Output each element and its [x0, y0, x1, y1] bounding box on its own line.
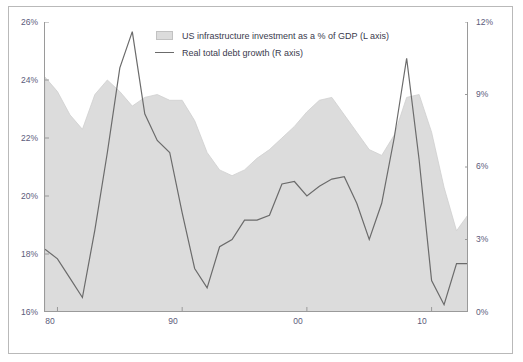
y-left-tick-26: 26% — [8, 17, 38, 27]
y-right-tick-3: 3% — [476, 234, 506, 244]
area-series-infrastructure — [45, 77, 468, 312]
chart-plot-svg — [45, 22, 468, 312]
y-left-tick-22: 22% — [8, 133, 38, 143]
y-right-tick-9: 9% — [476, 89, 506, 99]
y-right-tick-12: 12% — [476, 17, 506, 27]
plot-area — [44, 22, 468, 312]
y-right-tick-6: 6% — [476, 161, 506, 171]
y-right-tick-0: 0% — [476, 307, 506, 317]
y-left-tick-16: 16% — [8, 307, 38, 317]
chart-container: US infrastructure investment as a % of G… — [0, 0, 523, 362]
y-left-tick-24: 24% — [8, 75, 38, 85]
x-tick-90: 90 — [161, 316, 185, 326]
y-left-tick-20: 20% — [8, 191, 38, 201]
x-tick-80: 80 — [38, 316, 62, 326]
x-tick-10: 10 — [410, 316, 434, 326]
x-tick-00: 00 — [286, 316, 310, 326]
y-left-tick-18: 18% — [8, 249, 38, 259]
